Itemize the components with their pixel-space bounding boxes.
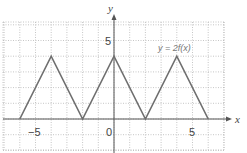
x-tick-label-0: 0 (106, 126, 112, 138)
x-axis-label: x (234, 113, 240, 125)
x-axis-arrow-icon (226, 117, 232, 122)
x-tick-label-5: 5 (189, 126, 195, 138)
y-tick-label-5: 5 (105, 35, 111, 47)
x-tick-label-neg5: −5 (28, 126, 41, 138)
y-axis-label: y (107, 2, 113, 14)
curve-annotation: y = 2f(x) (157, 43, 191, 53)
chart-canvas: x y −5 0 5 5 y = 2f(x) (0, 0, 247, 153)
y-axis-arrow-icon (112, 14, 117, 20)
